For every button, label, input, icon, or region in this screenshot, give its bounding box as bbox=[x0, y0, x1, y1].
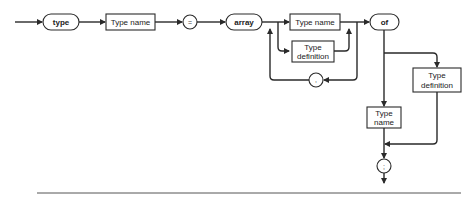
keyword-array: array bbox=[226, 14, 262, 30]
box-elem-type-def-line1: Type bbox=[428, 71, 446, 80]
box-type-name-label: Type name bbox=[111, 18, 151, 27]
branch-elem-typedef bbox=[384, 53, 437, 67]
symbol-comma-label: , bbox=[315, 76, 317, 83]
box-index-type-def-line1: Type bbox=[304, 43, 322, 52]
box-index-type-def-line2: definition bbox=[297, 52, 329, 61]
symbol-semicolon: ; bbox=[377, 159, 391, 173]
syntax-diagram: type Type name = array Type name Type de… bbox=[0, 0, 476, 199]
box-type-name: Type name bbox=[106, 14, 155, 30]
box-elem-type-name-line2: name bbox=[374, 118, 395, 127]
symbol-equals: = bbox=[183, 15, 197, 29]
box-index-type-definition: Type definition bbox=[292, 41, 334, 62]
box-index-type-name: Type name bbox=[290, 14, 340, 30]
keyword-type: type bbox=[43, 14, 79, 30]
symbol-semicolon-label: ; bbox=[383, 163, 385, 170]
branch-index-typedef bbox=[278, 22, 289, 51]
box-elem-type-name-line1: Type bbox=[375, 109, 393, 118]
keyword-of-label: of bbox=[381, 18, 389, 27]
keyword-type-label: type bbox=[53, 18, 70, 27]
box-elem-type-name: Type name bbox=[367, 107, 401, 128]
box-index-type-name-label: Type name bbox=[295, 18, 335, 27]
merge-index-typedef bbox=[334, 29, 349, 51]
symbol-equals-label: = bbox=[188, 19, 192, 26]
symbol-comma: , bbox=[309, 73, 323, 87]
keyword-of: of bbox=[370, 14, 399, 30]
keyword-array-label: array bbox=[234, 18, 254, 27]
box-elem-type-def-line2: definition bbox=[421, 81, 453, 90]
box-elem-type-definition: Type definition bbox=[413, 68, 461, 92]
